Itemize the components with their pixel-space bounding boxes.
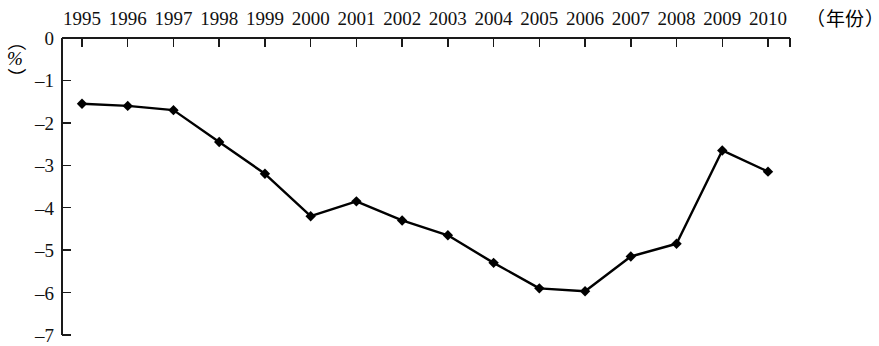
chart-series-line (82, 104, 768, 292)
data-point-marker (443, 230, 453, 240)
x-axis-title: （年份） (806, 4, 879, 31)
x-axis-tick-label: 2009 (703, 9, 741, 28)
x-axis-tick-label: 1998 (200, 9, 238, 28)
data-point-marker (717, 145, 727, 155)
y-axis-tick-label: –6 (10, 283, 54, 302)
x-axis-tick-label: 2010 (749, 9, 787, 28)
data-point-marker (534, 283, 544, 293)
x-axis-tick-label: 2007 (612, 9, 650, 28)
data-point-marker (397, 215, 407, 225)
x-axis-tick-label: 2000 (292, 9, 330, 28)
x-axis-tick-label: 1999 (246, 9, 284, 28)
data-point-marker (488, 258, 498, 268)
x-axis-tick-label: 1997 (154, 9, 192, 28)
data-point-marker (763, 166, 773, 176)
data-line (82, 104, 768, 292)
y-axis-tick-label: –5 (10, 241, 54, 260)
y-axis-tick-label: –3 (10, 156, 54, 175)
data-point-marker (77, 99, 87, 109)
x-axis-tick-label: 2002 (383, 9, 421, 28)
x-axis-tick-label: 2006 (566, 9, 604, 28)
y-axis-tick-label: –1 (10, 71, 54, 90)
x-axis-tick-label: 2008 (658, 9, 696, 28)
data-point-marker (351, 196, 361, 206)
y-axis-tick-label: –2 (10, 113, 54, 132)
x-axis-tick-label: 2003 (429, 9, 467, 28)
y-axis-tick-label: –7 (10, 326, 54, 345)
x-axis-tick-label: 1996 (109, 9, 147, 28)
y-axis-tick-label: –4 (10, 198, 54, 217)
y-axis-tick-label: 0 (10, 29, 54, 48)
chart-data-markers (77, 99, 773, 297)
data-point-marker (671, 239, 681, 249)
x-axis-tick-label: 2004 (475, 9, 513, 28)
chart-axes (62, 38, 790, 335)
data-point-marker (123, 101, 133, 111)
x-axis-tick-label: 2005 (520, 9, 558, 28)
x-axis-tick-label: 1995 (63, 9, 101, 28)
x-axis-tick-label: 2001 (337, 9, 375, 28)
